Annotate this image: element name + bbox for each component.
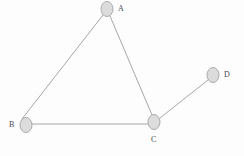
graph-node-d[interactable]	[207, 68, 219, 83]
graph-node-label-d: D	[224, 71, 230, 79]
graph-edge-a-c[interactable]	[110, 16, 152, 115]
graph-edge-c-d[interactable]	[160, 80, 208, 118]
graph-node-label-a: A	[118, 5, 124, 13]
graph-node-b[interactable]	[20, 118, 32, 133]
graph-node-label-b: B	[9, 121, 15, 129]
graph-node-label-c: C	[151, 136, 157, 144]
edges-layer	[22, 15, 208, 124]
graph-node-c[interactable]	[148, 115, 160, 130]
nodes-layer	[20, 2, 219, 133]
graph-edge-a-b[interactable]	[22, 15, 103, 119]
graph-diagram-canvas: ABCD	[0, 0, 244, 156]
graph-node-a[interactable]	[101, 2, 113, 17]
graph-svg	[0, 0, 244, 156]
